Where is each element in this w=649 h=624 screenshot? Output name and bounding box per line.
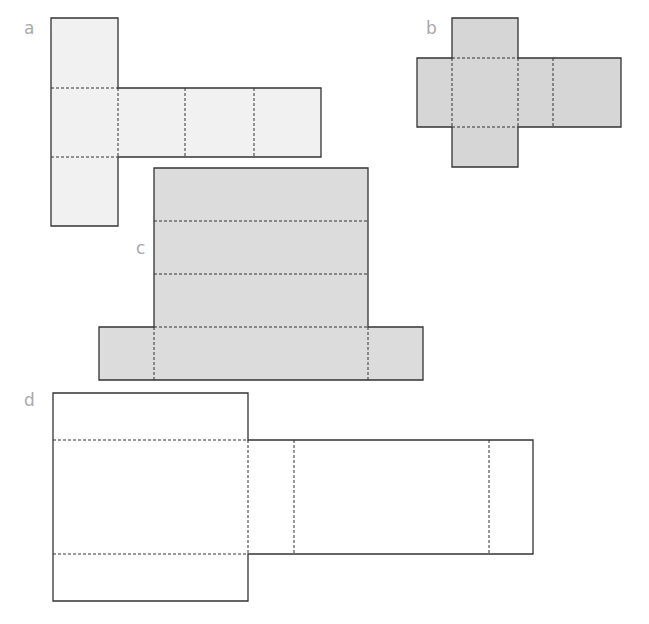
net-c: [99, 168, 423, 380]
net-d: [53, 393, 533, 601]
net-b: [417, 18, 621, 167]
nets-diagram: [0, 0, 649, 624]
